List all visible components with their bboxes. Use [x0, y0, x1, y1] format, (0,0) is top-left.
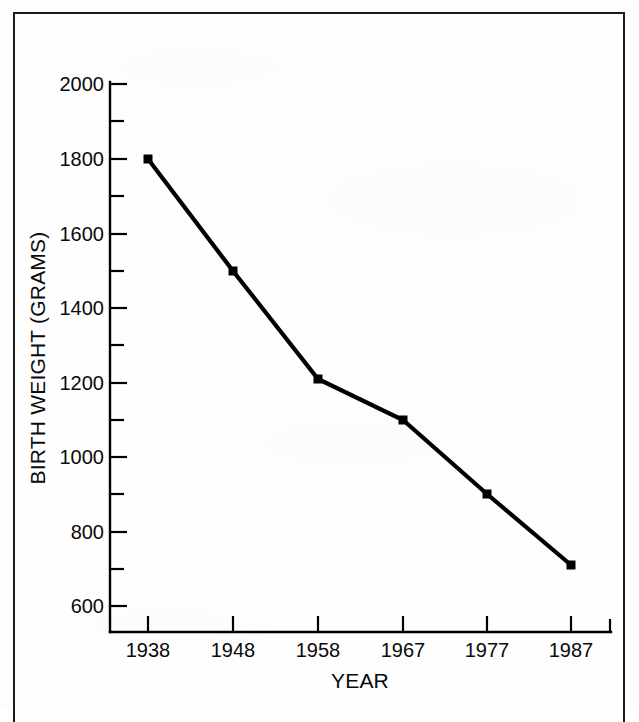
- y-tick-label-1800: 1800: [60, 148, 105, 170]
- y-tick-label-1000: 1000: [60, 446, 105, 468]
- data-point-1958: [314, 375, 323, 384]
- series-line: [148, 159, 571, 565]
- y-tick-label-2000: 2000: [60, 73, 105, 95]
- y-tick-label-1400: 1400: [60, 297, 105, 319]
- y-axis-tick-labels: 2000 1800 1600 1400 1200 1000 800 600: [60, 73, 105, 617]
- data-point-1977: [483, 490, 492, 499]
- data-point-1967: [399, 416, 408, 425]
- data-point-1948: [229, 267, 238, 276]
- y-tick-label-1200: 1200: [60, 372, 105, 394]
- x-tick-label-1977: 1977: [465, 639, 510, 661]
- x-tick-label-1967: 1967: [381, 639, 426, 661]
- axes: [110, 82, 611, 632]
- x-tick-label-1938: 1938: [126, 639, 171, 661]
- y-axis-title: BIRTH WEIGHT (GRAMS): [26, 232, 49, 485]
- x-tick-label-1948: 1948: [211, 639, 256, 661]
- x-axis-ticks: [148, 616, 610, 632]
- y-tick-label-600: 600: [71, 595, 104, 617]
- x-tick-label-1958: 1958: [296, 639, 341, 661]
- data-series-birth-weight: [144, 155, 576, 570]
- y-tick-label-800: 800: [71, 521, 104, 543]
- y-tick-label-1600: 1600: [60, 223, 105, 245]
- data-point-1987: [567, 561, 576, 570]
- x-tick-label-1987: 1987: [549, 639, 594, 661]
- y-axis-ticks: [110, 84, 127, 606]
- x-axis-title: YEAR: [331, 669, 389, 692]
- x-axis-tick-labels: 1938 1948 1958 1967 1977 1987: [126, 639, 594, 661]
- data-point-1938: [144, 155, 153, 164]
